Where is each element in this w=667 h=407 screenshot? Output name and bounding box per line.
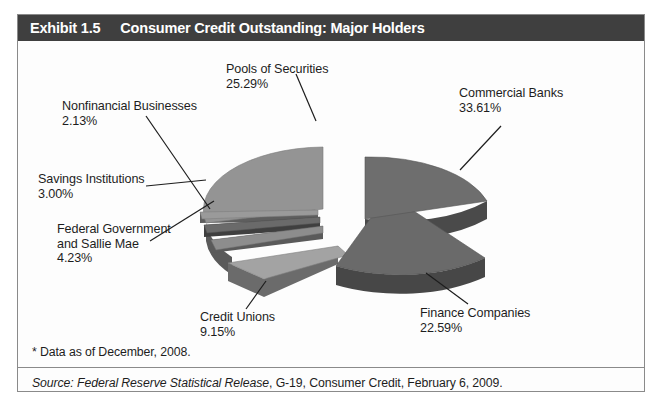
label-federal-line2: and Sallie Mae <box>57 237 171 252</box>
exhibit-title-bar: Exhibit 1.5 Consumer Credit Outstanding:… <box>18 15 644 41</box>
label-pools-of-securities: Pools of Securities 25.29% <box>226 62 328 91</box>
label-nonfinancial-name: Nonfinancial Businesses <box>62 99 197 114</box>
exhibit-title: Consumer Credit Outstanding: Major Holde… <box>120 20 424 36</box>
source-prefix: Source: <box>32 376 74 390</box>
label-federal-line1: Federal Government <box>57 222 171 237</box>
label-commercial-name: Commercial Banks <box>459 86 563 101</box>
label-finance-name: Finance Companies <box>420 306 530 321</box>
label-commercial-banks: Commercial Banks 33.61% <box>459 86 563 115</box>
label-finance-value: 22.59% <box>420 321 530 336</box>
label-pools-value: 25.29% <box>226 77 328 92</box>
source-citation: Source: Federal Reserve Statistical Rele… <box>32 376 503 390</box>
label-pools-name: Pools of Securities <box>226 62 328 77</box>
leader-line-nonfinancial <box>146 116 210 209</box>
data-footnote: * Data as of December, 2008. <box>32 345 191 359</box>
label-nonfinancial-value: 2.13% <box>62 114 197 129</box>
exhibit-panel: Exhibit 1.5 Consumer Credit Outstanding:… <box>17 14 645 392</box>
source-rest: , G-19, Consumer Credit, February 6, 200… <box>269 376 503 390</box>
label-savings-name: Savings Institutions <box>38 172 145 187</box>
label-commercial-value: 33.61% <box>459 101 563 116</box>
label-federal-value: 4.23% <box>57 251 171 266</box>
label-federal-government: Federal Government and Sallie Mae 4.23% <box>57 222 171 266</box>
pie-chart-area: Pools of Securities 25.29% Nonfinancial … <box>18 41 644 341</box>
source-publication: Federal Reserve Statistical Release <box>77 376 269 390</box>
label-savings-institutions: Savings Institutions 3.00% <box>38 172 145 201</box>
leader-line-commercial <box>460 126 501 170</box>
label-nonfinancial-businesses: Nonfinancial Businesses 2.13% <box>62 99 197 128</box>
label-savings-value: 3.00% <box>38 187 145 202</box>
label-creditunions-value: 9.15% <box>200 325 275 340</box>
label-credit-unions: Credit Unions 9.15% <box>200 310 275 339</box>
exhibit-number: Exhibit 1.5 <box>30 20 100 36</box>
footer-divider <box>18 367 644 368</box>
label-creditunions-name: Credit Unions <box>200 310 275 325</box>
label-finance-companies: Finance Companies 22.59% <box>420 306 530 335</box>
leader-line-savings <box>146 180 206 186</box>
